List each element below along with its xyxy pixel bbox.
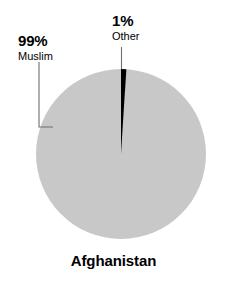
- slice-label-other: 1% Other: [112, 13, 140, 42]
- slice-label-other-name: Other: [112, 31, 140, 43]
- slice-label-muslim: 99% Muslim: [18, 33, 53, 62]
- slice-label-muslim-value: 99%: [18, 33, 53, 49]
- chart-title: Afghanistan: [0, 252, 227, 269]
- slice-label-other-value: 1%: [112, 13, 140, 29]
- slice-label-muslim-name: Muslim: [18, 51, 53, 63]
- pie-chart-figure: 99% Muslim 1% Other Afghanistan: [0, 0, 227, 283]
